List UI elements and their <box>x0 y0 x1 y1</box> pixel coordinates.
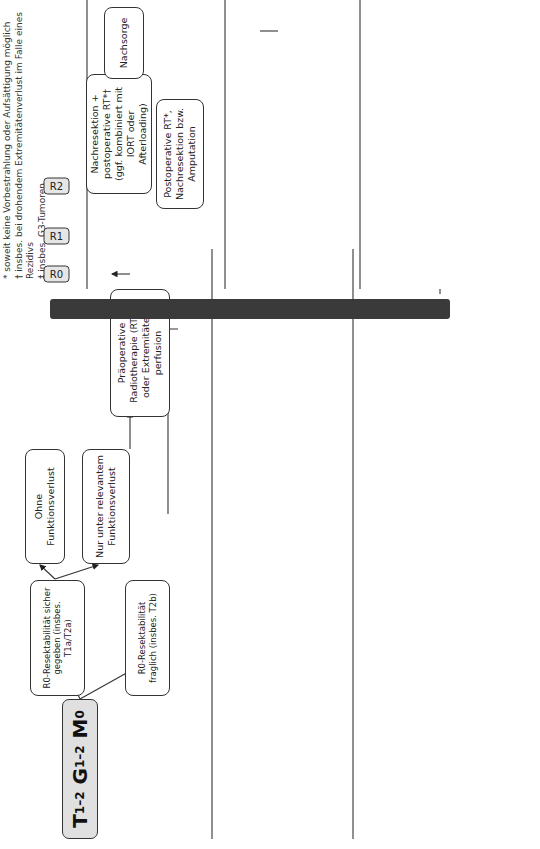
tag-r0: R0 <box>44 266 70 283</box>
tag-r1: R1 <box>44 228 70 245</box>
resection-bar <box>50 299 450 319</box>
s1-nachsorge-box: Nachsorge <box>104 7 144 79</box>
footnote-2: † insbes. bei drohendem Extremitätenverl… <box>14 0 37 279</box>
stage-t12-g12-m0: T1–2 G1–2 M0 <box>62 699 98 839</box>
footnote-1: * soweit keine Vorbestrahlung oder Aufsä… <box>2 0 14 279</box>
footnotes: * soweit keine Vorbestrahlung oder Aufsä… <box>2 0 49 279</box>
tag-r2: R2 <box>44 178 70 195</box>
r0-resektabilitaet-fraglich-box: R0-Resektabilität fraglich (insbes. T2b) <box>125 580 170 696</box>
s1-nachresektion-box: Nachresektion + postoperative RT*† (ggf.… <box>86 74 152 194</box>
ohne-funktionsverlust-box: Ohne Funktionsverlust <box>25 449 65 564</box>
s1-postoperative-rt-box: Postoperative RT*, Nachresektion bzw. Am… <box>156 99 204 209</box>
r0-resektabilitaet-sicher-box: R0-Resektabilität sicher gegeben (insbes… <box>30 580 85 696</box>
treatment-flowchart: T1–2 G1–2 M0 R0-Resektabilität sicher ge… <box>0 0 540 849</box>
nur-funktionsverlust-box: Nur unter relevantem Funktionsverlust <box>82 449 130 564</box>
